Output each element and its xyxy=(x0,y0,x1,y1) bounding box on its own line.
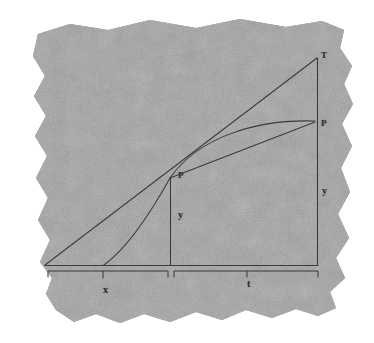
scanned-figure-page: T P P y y x t xyxy=(0,0,374,343)
figure-canvas xyxy=(0,0,374,343)
paper-sheet xyxy=(28,14,360,330)
